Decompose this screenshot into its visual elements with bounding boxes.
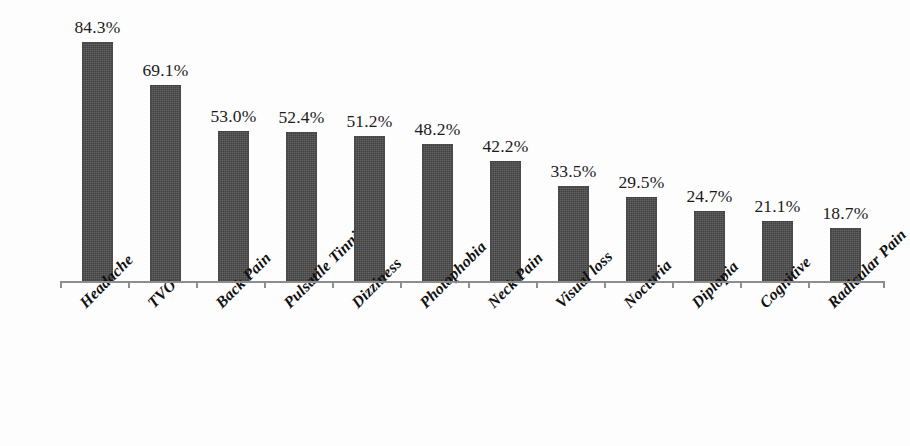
bar: [218, 131, 249, 281]
bar: [490, 161, 521, 281]
bar: [82, 42, 113, 281]
bar-value-label: 84.3%: [53, 17, 143, 38]
bar: [286, 132, 317, 281]
bar: [354, 136, 385, 281]
bar: [422, 144, 453, 281]
bar-value-label: 18.7%: [801, 203, 891, 224]
bar-value-label: 69.1%: [121, 60, 211, 81]
x-axis-line: [60, 281, 885, 283]
bar: [150, 85, 181, 281]
bar-value-label: 42.2%: [461, 136, 551, 157]
